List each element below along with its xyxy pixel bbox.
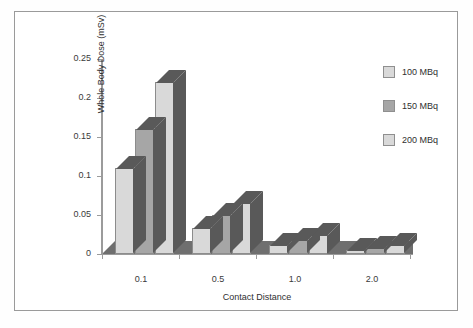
bar-2_0-100-mbq[interactable] [346, 250, 365, 254]
bar-2_0-150-mbq[interactable] [366, 248, 385, 254]
bar-side-face [153, 117, 166, 253]
legend-swatch-100mbq [383, 66, 395, 78]
y-axis-title: Whole Body Dose (mSv) [96, 0, 106, 162]
bar-1_0-100-mbq[interactable] [269, 245, 288, 254]
y-tick-label-0.05: 0.05 [73, 209, 91, 220]
legend-swatch-200mbq [383, 134, 395, 146]
y-tick-label-0.25: 0.25 [73, 53, 91, 64]
y-tick-label-0.15: 0.15 [73, 131, 91, 142]
x-tick-label-2.0: 2.0 [366, 274, 379, 284]
legend-item-150mbq[interactable]: 150 MBq [383, 100, 463, 112]
legend-item-100mbq[interactable]: 100 MBq [383, 66, 463, 78]
plot-area: 0.25 0.2 0.15 0.1 0.05 0 0.1 [101, 59, 401, 255]
x-tick-2 [256, 254, 257, 259]
bar-side-face [133, 156, 146, 253]
bar-0_1-100-mbq[interactable] [115, 168, 134, 254]
y-tick-label-0: 0 [86, 248, 91, 259]
bar-0_5-100-mbq[interactable] [192, 228, 211, 254]
chart-legend: 100 MBq 150 MBq 200 MBq [383, 66, 463, 168]
x-axis-title: Contact Distance [101, 292, 413, 302]
x-tick-1 [179, 254, 180, 259]
y-tick-0.05: 0.05 [97, 215, 102, 216]
x-tick-label-1.0: 1.0 [289, 274, 302, 284]
bar-side-face [173, 70, 186, 253]
x-tick-label-0.1: 0.1 [135, 274, 148, 284]
legend-item-200mbq[interactable]: 200 MBq [383, 134, 463, 146]
legend-swatch-150mbq [383, 100, 395, 112]
y-tick-label-0.2: 0.2 [78, 92, 91, 103]
x-tick-start [102, 254, 103, 259]
legend-label-150mbq: 150 MBq [402, 101, 438, 111]
x-tick-4 [410, 254, 411, 259]
x-tick-3 [333, 254, 334, 259]
legend-label-100mbq: 100 MBq [402, 67, 438, 77]
y-tick-0.1: 0.1 [97, 176, 102, 177]
chart-figure: 0.25 0.2 0.15 0.1 0.05 0 0.1 [0, 0, 473, 328]
chart-frame: 0.25 0.2 0.15 0.1 0.05 0 0.1 [14, 11, 458, 311]
x-tick-label-0.5: 0.5 [212, 274, 225, 284]
y-tick-label-0.1: 0.1 [78, 170, 91, 181]
legend-label-200mbq: 200 MBq [402, 135, 438, 145]
